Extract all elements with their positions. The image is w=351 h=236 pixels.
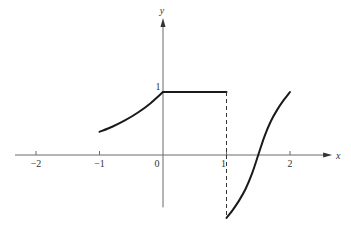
y-axis-arrow-icon xyxy=(161,18,166,27)
x-tick-label: −2 xyxy=(31,158,42,169)
labels: −2−10121xy xyxy=(31,5,341,169)
series-exp-segment xyxy=(100,92,164,132)
axes xyxy=(15,18,332,207)
x-axis-arrow-icon xyxy=(323,153,332,158)
function-graph: −2−10121xy xyxy=(0,0,351,236)
y-axis-label: y xyxy=(159,5,165,16)
x-axis-label: x xyxy=(335,150,341,161)
x-tick-label: −1 xyxy=(94,158,105,169)
x-tick-label: 0 xyxy=(155,158,160,169)
x-tick-label: 1 xyxy=(221,158,226,169)
x-tick-label: 2 xyxy=(288,158,293,169)
y-tick-label: 1 xyxy=(156,81,161,92)
